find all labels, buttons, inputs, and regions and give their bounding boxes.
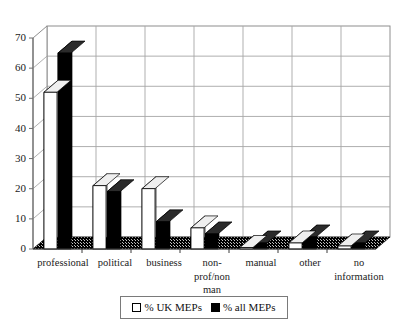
chart-legend: % UK MEPs % all MEPs bbox=[120, 296, 288, 319]
x-axis bbox=[33, 249, 376, 253]
y-tick-60: 60 bbox=[0, 62, 26, 73]
legend-entry-uk-meps: % UK MEPs bbox=[132, 302, 201, 313]
legend-label-all-meps: % all MEPs bbox=[223, 302, 276, 313]
y-tick-50: 50 bbox=[0, 92, 26, 103]
y-tick-0: 0 bbox=[0, 243, 26, 254]
y-tick-20: 20 bbox=[0, 183, 26, 194]
legend-label-uk-meps: % UK MEPs bbox=[144, 302, 201, 313]
plot-top-edge bbox=[33, 26, 390, 38]
light-square-icon bbox=[132, 303, 141, 312]
y-tick-10: 10 bbox=[0, 213, 26, 224]
legend-entry-all-meps: % all MEPs bbox=[211, 302, 276, 313]
bar-chart: 70 60 50 40 30 20 10 0 professional poli… bbox=[0, 0, 406, 331]
y-tick-40: 40 bbox=[0, 123, 26, 134]
y-tick-30: 30 bbox=[0, 153, 26, 164]
y-tick-70: 70 bbox=[0, 32, 26, 43]
plot-area bbox=[0, 0, 406, 331]
dark-square-icon bbox=[211, 303, 220, 312]
